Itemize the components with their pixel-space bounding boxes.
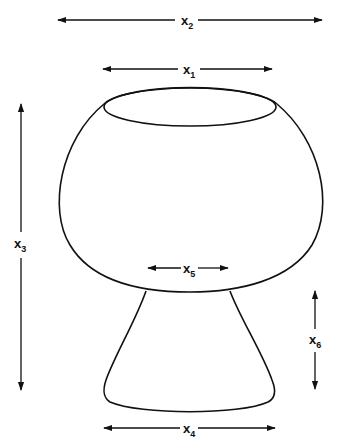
dimension-x6: x6 <box>309 291 321 389</box>
rim-opening <box>104 88 276 126</box>
label-x3: x3 <box>14 236 26 254</box>
label-x2: x2 <box>181 13 193 31</box>
dimension-x1: x1 <box>103 62 272 80</box>
label-x6: x6 <box>309 332 321 350</box>
dimension-x3: x3 <box>14 104 26 390</box>
dimension-x5: x5 <box>148 261 228 279</box>
label-x4: x4 <box>183 421 195 439</box>
label-x1: x1 <box>183 62 195 80</box>
foot-outline <box>104 291 275 412</box>
dimension-x2: x2 <box>58 13 322 31</box>
label-x5: x5 <box>183 261 195 279</box>
bowl-outline <box>59 104 322 292</box>
rim-back-edge <box>104 88 277 105</box>
dimension-x4: x4 <box>104 421 275 439</box>
goblet-diagram: x2 x1 x5 x4 x3 x6 <box>0 0 337 445</box>
